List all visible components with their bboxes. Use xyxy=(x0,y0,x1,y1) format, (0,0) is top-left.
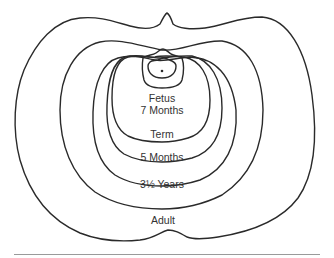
label-fetus: Fetus xyxy=(149,92,175,104)
label-adult: Adult xyxy=(151,214,175,226)
label-five-months: 5 Months xyxy=(140,151,183,163)
center-dot xyxy=(161,70,164,73)
contour-adult xyxy=(15,13,315,241)
bottom-rule xyxy=(14,254,320,255)
label-three-half-years: 3½ Years xyxy=(140,178,184,190)
label-seven-months: 7 Months xyxy=(140,104,183,116)
label-term: Term xyxy=(150,128,173,140)
